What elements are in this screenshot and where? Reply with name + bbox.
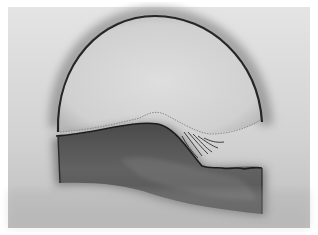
photograph	[0, 0, 318, 235]
bottom-shading	[8, 190, 310, 228]
